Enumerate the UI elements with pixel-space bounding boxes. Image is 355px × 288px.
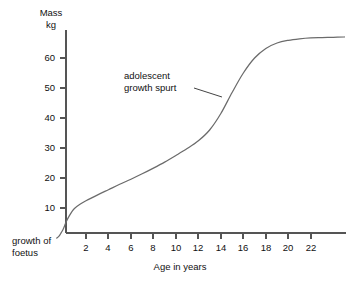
annotation-line2: growth spurt [124, 82, 176, 93]
x-tick-label-18: 18 [258, 242, 274, 253]
growth-of-foetus-label: growth offoetus [12, 235, 74, 258]
x-tick-label-16: 16 [235, 242, 251, 253]
foetus-line1: growth of [12, 235, 51, 246]
y-axis-title: Masskg [28, 7, 74, 30]
x-tick-label-22: 22 [303, 242, 319, 253]
y-tick-label-40: 40 [33, 112, 55, 123]
annotation-line1: adolescent [124, 70, 170, 81]
x-tick-label-8: 8 [145, 242, 161, 253]
y-tick-label-10: 10 [33, 202, 55, 213]
y-tick-label-30: 30 [33, 142, 55, 153]
x-tick-label-10: 10 [168, 242, 184, 253]
y-tick-label-20: 20 [33, 172, 55, 183]
annotation-adolescent-growth-spurt: adolescentgrowth spurt [124, 70, 210, 93]
x-axis-title: Age in years [120, 261, 240, 272]
growth-curve-line [57, 37, 345, 238]
x-tick-label-20: 20 [280, 242, 296, 253]
x-tick-label-6: 6 [123, 242, 139, 253]
y-axis-title-line2: kg [46, 19, 56, 30]
x-tick-label-2: 2 [78, 242, 94, 253]
x-axis-ticks [86, 233, 311, 239]
chart-figure: Masskg 60 50 40 30 20 10 2 4 6 8 10 12 1… [0, 0, 355, 288]
y-axis-ticks [60, 58, 66, 208]
y-tick-label-50: 50 [33, 82, 55, 93]
x-tick-label-14: 14 [213, 242, 229, 253]
x-tick-label-4: 4 [100, 242, 116, 253]
y-tick-label-60: 60 [33, 52, 55, 63]
y-axis-title-line1: Mass [40, 7, 63, 18]
foetus-line2: foetus [12, 247, 38, 258]
x-tick-label-12: 12 [190, 242, 206, 253]
